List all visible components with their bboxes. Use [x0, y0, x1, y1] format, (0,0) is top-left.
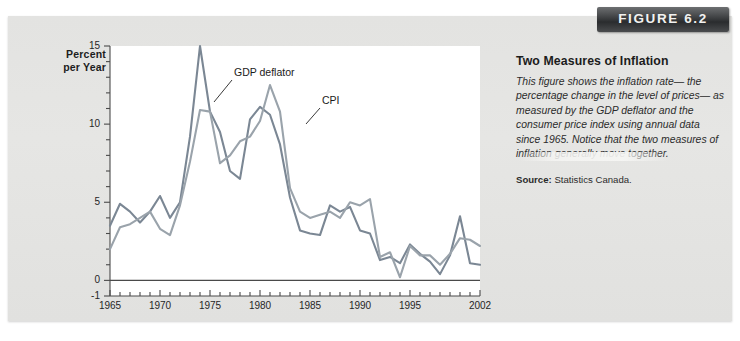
- figure-page: FIGURE 6.2 Percent per Year 151050-1 196…: [0, 0, 740, 341]
- figure-source-value: Statistics Canada.: [554, 174, 631, 185]
- chart-series: [110, 46, 480, 277]
- series-line-gdp-deflator: [110, 46, 480, 274]
- series-annotation-cpi: CPI: [322, 94, 340, 106]
- chart-axes: [104, 46, 480, 296]
- annotation-leader-lines: [214, 80, 320, 124]
- figure-caption-text: This figure shows the inflation rate— th…: [516, 75, 724, 161]
- series-annotation-gdp-deflator: GDP deflator: [234, 66, 295, 78]
- figure-source: Source: Statistics Canada.: [516, 174, 724, 185]
- figure-caption-block: Two Measures of Inflation This figure sh…: [516, 54, 724, 185]
- series-line-cpi: [110, 85, 480, 277]
- figure-source-label: Source:: [516, 174, 552, 185]
- chart-card: Percent per Year 151050-1 19651970197519…: [34, 32, 504, 304]
- figure-banner-label: FIGURE 6.2: [597, 11, 729, 26]
- figure-title: Two Measures of Inflation: [516, 54, 724, 68]
- figure-banner: FIGURE 6.2: [597, 7, 729, 32]
